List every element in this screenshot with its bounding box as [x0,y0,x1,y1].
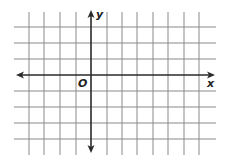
y-axis-label: y [96,8,104,21]
grid-lines [14,12,216,155]
x-axis-label: x [206,77,215,90]
coordinate-grid: y x O [0,0,225,159]
origin-label: O [78,77,87,90]
axes [16,10,215,153]
